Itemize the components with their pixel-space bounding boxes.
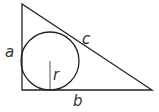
side-b-label: b xyxy=(73,92,83,110)
hypotenuse-c-label: c xyxy=(82,30,91,48)
radius-r-label: r xyxy=(53,66,60,84)
incircle-triangle-diagram: a b c r xyxy=(0,0,159,112)
side-a-label: a xyxy=(5,43,14,61)
